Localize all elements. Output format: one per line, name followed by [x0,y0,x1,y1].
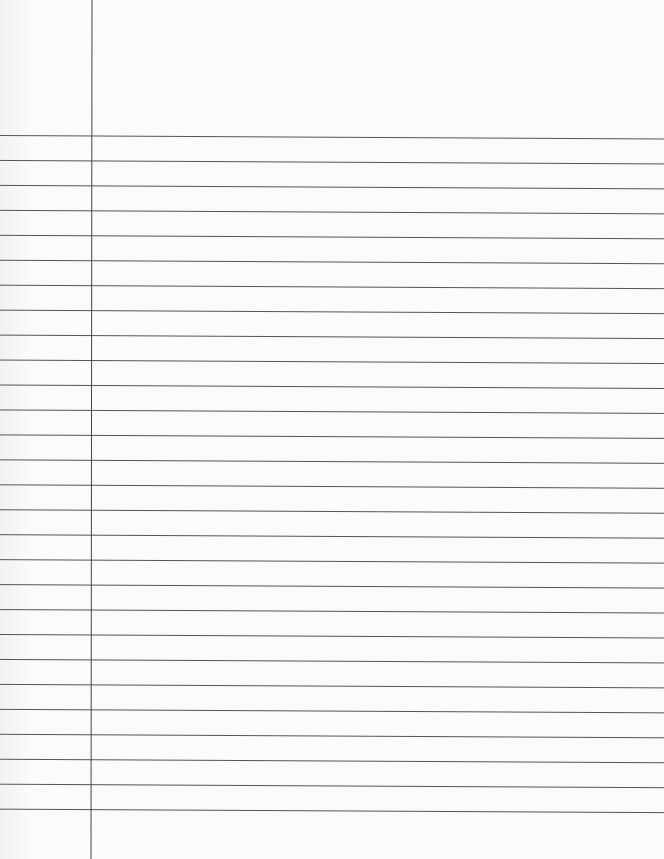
ruled-line [0,210,664,214]
ruled-line [0,360,664,364]
ruled-line [0,560,664,564]
ruled-line [0,585,664,589]
ruled-line [0,260,664,264]
ruled-line [0,136,664,140]
ruled-line [0,684,664,688]
ruled-line [0,809,664,813]
ruled-line [0,310,664,314]
ruled-line [0,235,664,239]
ruled-line [0,435,664,439]
ruled-lines [0,136,664,813]
ruled-line [0,759,664,763]
lined-paper [0,0,664,859]
ruled-line [0,460,664,464]
ruled-line [0,510,664,514]
ruled-line [0,485,664,489]
ruled-line [0,335,664,339]
ruled-line [0,709,664,713]
ruled-line [0,610,664,614]
ruled-line [0,535,664,539]
ruled-line [0,635,664,639]
ruled-line [0,410,664,414]
ruled-line [0,385,664,389]
ruled-line [0,734,664,738]
ruled-line [0,784,664,788]
margin-line [91,0,92,859]
ruled-line [0,185,664,189]
ruled-line [0,285,664,289]
ruled-line [0,659,664,663]
ruled-line [0,160,664,164]
